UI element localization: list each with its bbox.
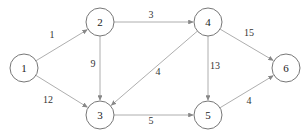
- node-label: 3: [97, 109, 103, 121]
- edge-1-2: [36, 30, 87, 61]
- edge-weight-label: 4: [247, 95, 252, 106]
- graph-canvas: 112394513154123456: [0, 0, 307, 138]
- edge-weight-label: 1: [50, 29, 55, 40]
- graph-diagram: 112394513154123456: [0, 0, 307, 138]
- node-label: 5: [205, 109, 211, 121]
- edge-weight-label: 12: [43, 94, 53, 105]
- edge-weight-label: 9: [91, 58, 96, 69]
- node-5: 5: [194, 101, 222, 129]
- edge-weight-label: 13: [210, 60, 220, 71]
- edge-weight-label: 3: [149, 9, 154, 20]
- node-6: 6: [272, 54, 300, 82]
- node-label: 2: [97, 16, 103, 28]
- node-label: 6: [283, 62, 289, 74]
- node-label: 4: [205, 16, 211, 28]
- node-label: 1: [21, 62, 27, 74]
- node-3: 3: [86, 101, 114, 129]
- edge-weight-label: 15: [244, 27, 254, 38]
- node-4: 4: [194, 8, 222, 36]
- edge-weight-label: 4: [156, 66, 161, 77]
- edge-4-3: [111, 31, 197, 105]
- node-2: 2: [86, 8, 114, 36]
- edge-weight-label: 5: [149, 115, 154, 126]
- node-1: 1: [10, 54, 38, 82]
